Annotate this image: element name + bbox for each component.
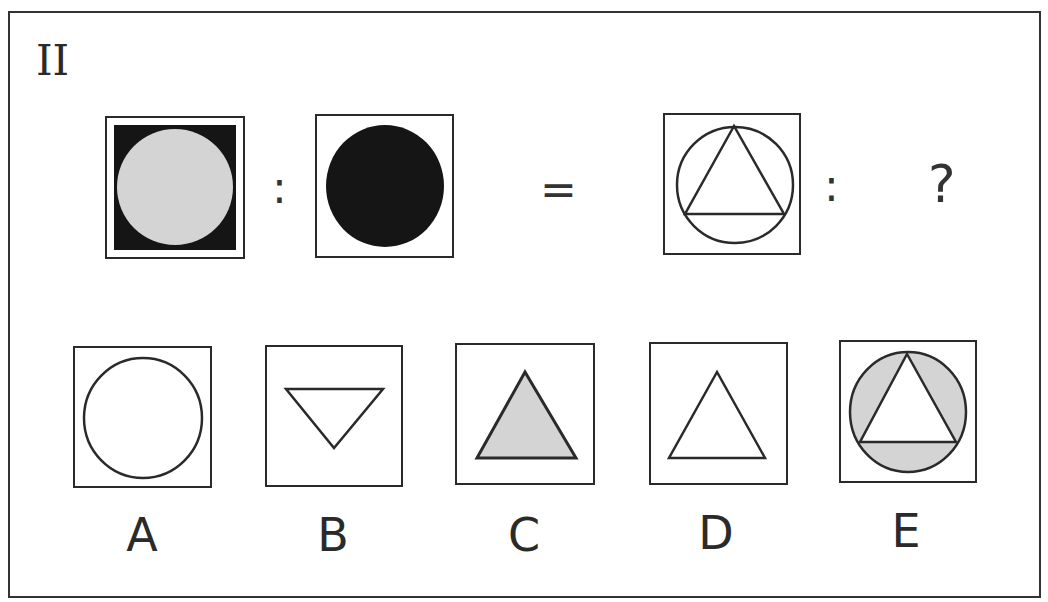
analogy-figure-3 — [663, 113, 801, 255]
option-b-label[interactable]: B — [303, 512, 363, 558]
option-e-figure[interactable] — [839, 340, 977, 483]
option-a-label[interactable]: A — [112, 512, 172, 558]
option-c-figure[interactable] — [455, 343, 595, 485]
colon-2: : — [824, 164, 839, 208]
option-d-figure[interactable] — [649, 342, 788, 485]
colon-1: : — [272, 166, 287, 210]
option-c-label[interactable]: C — [494, 512, 554, 558]
option-d-label[interactable]: D — [686, 510, 746, 556]
analogy-figure-1 — [105, 116, 245, 259]
question-mark: ? — [928, 158, 956, 210]
puzzle-number: II — [36, 40, 69, 82]
analogy-figure-2 — [315, 114, 454, 258]
option-b-figure[interactable] — [265, 345, 403, 487]
option-a-figure[interactable] — [73, 346, 212, 488]
equals-sign: = — [540, 168, 577, 212]
option-e-label[interactable]: E — [876, 508, 936, 554]
